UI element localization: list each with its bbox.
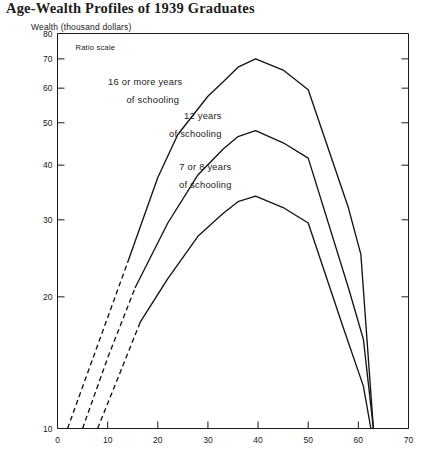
series-annotation-1: of schooling [126,95,179,105]
y-tick-label-80: 80 [43,29,53,39]
chart-page: Age-Wealth Profiles of 1939 Graduates We… [0,0,440,450]
x-tick-label-20: 20 [153,435,163,445]
series-annotation-2: 12 years [184,111,222,121]
series-annotation-4: 7 or 8 years [179,162,231,172]
series-1-dashed-segment [83,288,136,429]
series-0-dashed-segment [68,262,128,428]
series-annotation-3: of schooling [169,129,222,139]
x-tick-label-30: 30 [203,435,213,445]
series-2-line [140,196,371,428]
series-0-line [128,59,374,429]
series-2-dashed-segment [98,322,141,428]
age-wealth-line-chart: 1020304050607080010203040506070 16 or mo… [0,0,440,450]
plot-frame [58,34,409,429]
x-tick-label-10: 10 [103,435,113,445]
y-tick-label-70: 70 [43,54,53,64]
series-annotation-0: 16 or more years [108,77,182,87]
chart-ticks: 1020304050607080010203040506070 [43,29,413,445]
ratio-scale-note: Ratio scale [76,43,116,52]
chart-axes [58,34,409,429]
x-tick-label-0: 0 [55,435,60,445]
y-tick-label-40: 40 [43,160,53,170]
y-tick-label-20: 20 [43,292,53,302]
x-tick-label-50: 50 [303,435,313,445]
y-tick-label-30: 30 [43,215,53,225]
y-tick-label-10: 10 [43,424,53,434]
y-tick-label-60: 60 [43,83,53,93]
chart-annotations: 16 or more yearsof schooling12 yearsof s… [108,77,232,190]
series-annotation-5: of schooling [179,180,232,190]
y-tick-label-50: 50 [43,118,53,128]
x-tick-label-70: 70 [404,435,414,445]
x-tick-label-40: 40 [253,435,263,445]
x-tick-label-60: 60 [354,435,364,445]
scale-note-group: Ratio scale [76,43,116,52]
